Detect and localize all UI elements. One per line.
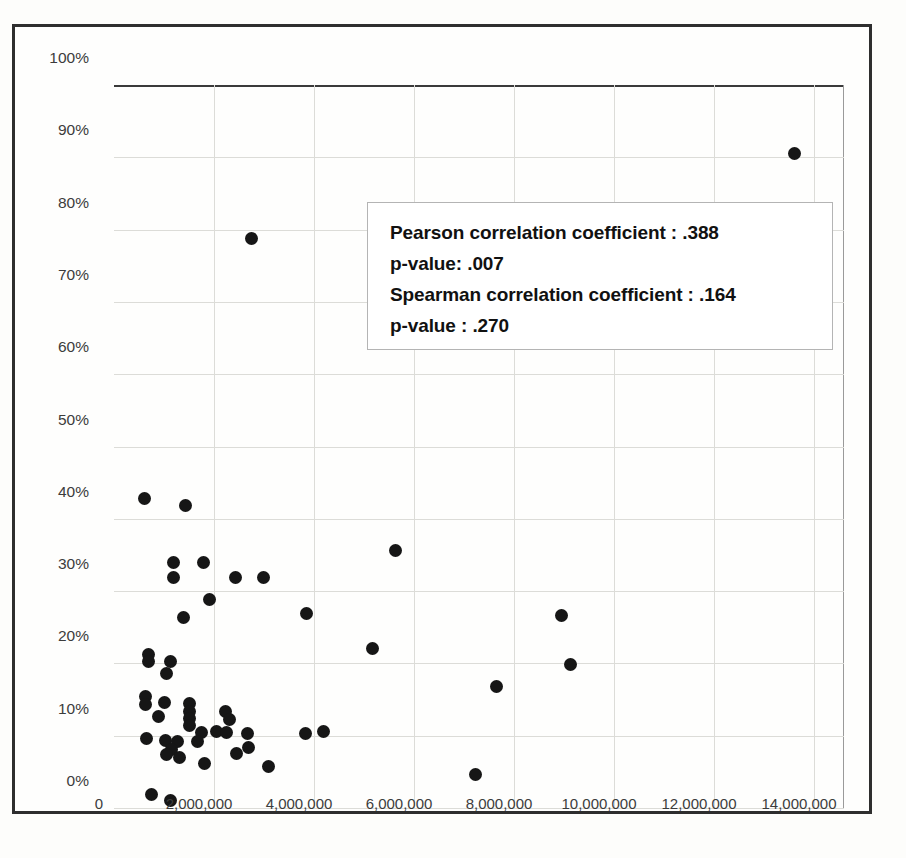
- y-tick-label: 90%: [17, 121, 89, 139]
- x-tick-label: 2,000,000: [166, 795, 233, 812]
- x-tick-label: 0: [95, 795, 103, 812]
- x-tick-label: 14,000,000: [761, 795, 836, 812]
- y-axis-tick-labels: 0%10%20%30%40%50%60%70%80%90%100%: [0, 0, 906, 858]
- y-tick-label: 10%: [17, 700, 89, 718]
- y-tick-label: 60%: [17, 338, 89, 356]
- y-tick-label: 80%: [17, 194, 89, 212]
- y-tick-label: 100%: [17, 49, 89, 67]
- x-tick-label: 12,000,000: [661, 795, 736, 812]
- x-tick-label: 10,000,000: [561, 795, 636, 812]
- x-tick-label: 8,000,000: [466, 795, 533, 812]
- y-tick-label: 70%: [17, 266, 89, 284]
- x-tick-label: 4,000,000: [266, 795, 333, 812]
- y-tick-label: 30%: [17, 555, 89, 573]
- x-tick-label: 6,000,000: [366, 795, 433, 812]
- y-tick-label: 0%: [17, 772, 89, 790]
- scatter-plot-figure: Pearson correlation coefficient : .388 p…: [0, 0, 906, 858]
- y-tick-label: 50%: [17, 411, 89, 429]
- y-tick-label: 20%: [17, 627, 89, 645]
- y-tick-label: 40%: [17, 483, 89, 501]
